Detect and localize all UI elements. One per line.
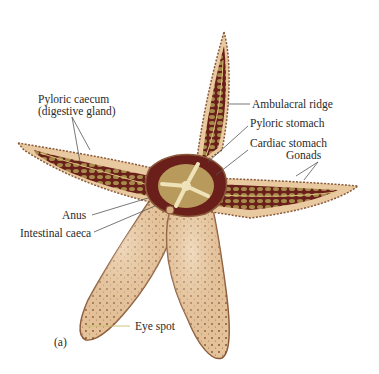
central-disc xyxy=(146,155,227,217)
label-anus: Anus xyxy=(62,209,86,222)
left-arm xyxy=(18,143,162,205)
starfish-illustration xyxy=(0,0,379,374)
label-pyloric-stomach: Pyloric stomach xyxy=(250,117,324,130)
label-ambulacral-ridge: Ambulacral ridge xyxy=(252,98,333,111)
label-pyloric-caecum-sub: (digestive gland) xyxy=(38,105,116,118)
label-gonads: Gonads xyxy=(286,149,321,162)
right-arm xyxy=(212,178,358,218)
lower-right-arm xyxy=(167,205,230,359)
label-eye-spot: Eye spot xyxy=(135,320,175,333)
panel-label: (a) xyxy=(54,336,67,349)
label-intestinal-caeca: Intestinal caeca xyxy=(20,227,91,240)
starfish-diagram: Pyloric caecum (digestive gland) Ambulac… xyxy=(0,0,379,374)
